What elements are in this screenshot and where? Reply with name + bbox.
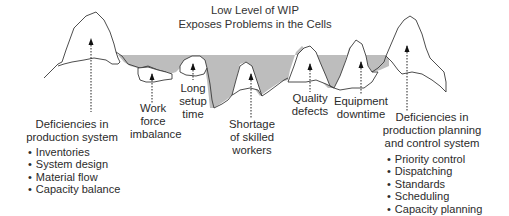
heading-line: Deficiencies in [24,118,120,131]
heading-line: and control system [378,137,486,150]
label-line: defects [287,105,333,118]
list-item: Dispatching [387,165,482,177]
label-work-force: Work force imbalance [130,102,176,141]
label-line: setup [176,95,210,108]
title-line-2: Exposes Problems in the Cells [170,18,340,32]
heading-line: Deficiencies in [378,111,486,124]
rock-planning-control [386,16,446,92]
list-item: Capacity planning [387,203,482,215]
label-quality: Quality defects [287,92,333,118]
list-item: Standards [387,178,482,190]
label-line: force [130,115,176,128]
title-line-1: Low Level of WIP [170,4,340,18]
diagram-title: Low Level of WIP Exposes Problems in the… [170,4,340,31]
list-item: Material flow [28,171,120,183]
right-group-list: Priority control Dispatching Standards S… [387,153,482,215]
label-line: Quality [287,92,333,105]
list-item: Inventories [28,146,120,158]
label-line: time [176,108,210,121]
label-line: workers [224,144,280,157]
right-group-heading: Deficiencies in production planning and … [378,111,486,150]
label-setup-time: Long setup time [176,82,210,121]
label-line: Shortage [224,118,280,131]
left-group-list: Inventories System design Material flow … [28,146,120,196]
label-line: Work [130,102,176,115]
wip-diagram: Low Level of WIP Exposes Problems in the… [0,0,509,216]
list-item: System design [28,158,120,170]
label-line: of skilled [224,131,280,144]
list-item: Scheduling [387,190,482,202]
heading-line: production system [24,131,120,144]
label-line: Long [176,82,210,95]
label-line: Equipment [331,95,391,108]
label-skilled-workers: Shortage of skilled workers [224,118,280,157]
list-item: Capacity balance [28,183,120,195]
rock-production-system [44,12,120,78]
heading-line: production planning [378,124,486,137]
left-group-heading: Deficiencies in production system [24,118,120,144]
label-line: imbalance [130,128,176,141]
list-item: Priority control [387,153,482,165]
